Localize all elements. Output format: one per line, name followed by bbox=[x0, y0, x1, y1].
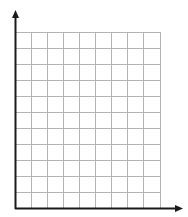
x-axis-arrow-icon bbox=[175, 205, 183, 212]
grid-lines bbox=[15, 32, 161, 208]
graph-grid-diagram bbox=[0, 0, 188, 217]
y-axis-arrow-icon bbox=[12, 10, 19, 18]
